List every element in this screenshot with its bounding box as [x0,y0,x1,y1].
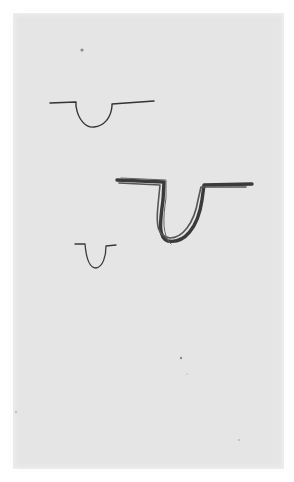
paper-speckles [15,48,240,440]
bold-u-profile-middle [117,178,252,244]
small-u-profile-bottom [75,244,116,268]
sketch-canvas [0,0,294,482]
light-u-profile-top [50,101,154,127]
